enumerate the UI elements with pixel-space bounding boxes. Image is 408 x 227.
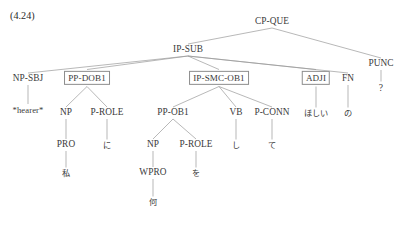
tree-edge-pp-ob1-to-p-role-2 xyxy=(173,119,196,139)
tree-node-punc-term: ? xyxy=(379,83,383,93)
tree-node-ni: に xyxy=(103,141,111,149)
tree-node-wo: を xyxy=(192,169,200,177)
tree-node-ip-smc-ob1: IP-SMC-OB1 xyxy=(189,71,249,85)
tree-node-shi: し xyxy=(232,141,240,149)
tree-node-ip-sub: IP-SUB xyxy=(173,45,203,54)
example-number: (4.24) xyxy=(10,10,35,21)
tree-edge-cp-que-to-ip-sub xyxy=(188,28,272,44)
tree-node-nani: 何 xyxy=(149,198,157,206)
tree-node-hearer: *hearer* xyxy=(13,106,44,115)
tree-node-pp-ob1: PP-OB1 xyxy=(157,108,189,117)
tree-node-p-role-2: P-ROLE xyxy=(179,140,212,149)
tree-node-pro: PRO xyxy=(57,140,75,149)
tree-node-np-2: NP xyxy=(147,140,159,149)
tree-edge-ip-smc-ob1-to-p-conn xyxy=(219,87,272,108)
tree-node-vb: VB xyxy=(229,108,242,117)
tree-edge-ip-sub-to-ip-smc-ob1 xyxy=(188,56,219,70)
tree-node-cp-que: CP-QUE xyxy=(255,17,289,26)
tree-node-pp-dob1: PP-DOB1 xyxy=(64,71,110,85)
tree-edge-ip-sub-to-pp-dob1 xyxy=(87,56,188,70)
syntax-tree-figure: (4.24) CP-QUEIP-SUBPUNC?NP-SBJ*hearer*PP… xyxy=(0,0,408,227)
tree-node-np-sbj: NP-SBJ xyxy=(13,74,44,83)
tree-node-hoshii: ほしい xyxy=(304,109,328,117)
tree-node-np-1: NP xyxy=(60,108,72,117)
tree-edge-ip-smc-ob1-to-pp-ob1 xyxy=(173,87,219,108)
tree-edge-pp-dob1-to-p-role-1 xyxy=(87,87,107,108)
tree-node-adji: ADJI xyxy=(302,71,330,85)
tree-node-te: て xyxy=(268,141,276,149)
tree-edge-pp-ob1-to-np-2 xyxy=(153,119,173,139)
tree-node-fn: FN xyxy=(342,74,354,83)
tree-node-p-role-1: P-ROLE xyxy=(90,108,123,117)
tree-edge-ip-smc-ob1-to-vb xyxy=(219,87,236,108)
tree-edge-pp-dob1-to-np-1 xyxy=(66,87,87,108)
tree-edge-ip-sub-to-adji xyxy=(188,56,316,70)
tree-node-no: の xyxy=(344,109,352,117)
tree-node-punc: PUNC xyxy=(368,59,393,68)
tree-edge-cp-que-to-punc xyxy=(272,28,381,58)
tree-node-wpro: WPRO xyxy=(139,168,166,177)
tree-node-watashi: 私 xyxy=(62,169,70,177)
tree-node-p-conn: P-CONN xyxy=(254,108,289,117)
